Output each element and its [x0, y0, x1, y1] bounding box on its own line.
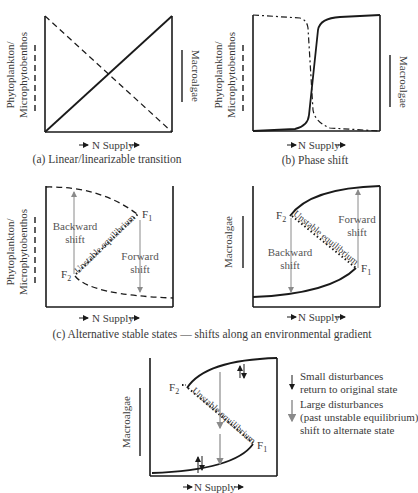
- backward-label-2: shift: [280, 259, 300, 271]
- upper-stable-branch: [187, 358, 277, 388]
- f1-label: F1: [257, 439, 267, 454]
- forward-label-1: Forward: [121, 250, 159, 262]
- panel-c-left-phytoplankton: Phytoplankton/ Microphytobenthos Backwar…: [4, 186, 173, 324]
- panel-c-right-macroalgae: Macroalgae Backward shift Forward shift …: [222, 186, 380, 323]
- y-label-phyto-2: Microphytobenthos: [17, 209, 29, 295]
- caption-a: (a) Linear/linearizable transition: [33, 153, 182, 166]
- disturbance-legend: Small disturbances return to original st…: [292, 370, 418, 436]
- y-label-macroalgae: Macroalgae: [222, 216, 234, 268]
- lower-dashed-branch: [75, 276, 173, 298]
- x-label: N Supply: [298, 311, 340, 323]
- x-label: N Supply: [194, 481, 236, 493]
- f2-label: F2: [276, 209, 286, 224]
- forward-label-2: shift: [130, 263, 150, 275]
- y-label-macroalgae: Macroalgae: [190, 50, 202, 102]
- x-label: N Supply: [92, 139, 134, 151]
- legend-large-1: Large disturbances: [300, 398, 383, 410]
- backward-label-2: shift: [65, 233, 85, 245]
- panel-d-disturbances: Macroalgae Unstable equilibrium F1 F2 N …: [120, 358, 418, 493]
- f1-label: F1: [142, 208, 152, 223]
- phytoplankton-dashed-curve: [253, 15, 380, 131]
- y-label-macroalgae: Macroalgae: [120, 396, 132, 448]
- caption-c: (c) Alternative stable states — shifts a…: [52, 328, 372, 341]
- caption-b: (b) Phase shift: [282, 154, 349, 167]
- panel-a-linear-transition: Phytoplankton/ Microphytobenthos Macroal…: [4, 16, 202, 166]
- legend-large-2: (past unstable equilibrium): [300, 411, 418, 424]
- legend-small-2: return to original state: [300, 383, 398, 395]
- macroalgae-curve: [253, 15, 380, 131]
- backward-label-1: Backward: [268, 246, 313, 258]
- y-label-phyto-1: Phytoplankton/: [4, 40, 16, 108]
- y-label-macroalgae: Macroalgae: [398, 56, 410, 108]
- forward-label-1: Forward: [338, 213, 376, 225]
- legend-small-1: Small disturbances: [300, 370, 383, 382]
- x-label: N Supply: [92, 312, 134, 324]
- forward-label-2: shift: [347, 226, 367, 238]
- y-label-phyto-1: Phytoplankton/: [212, 40, 224, 108]
- regime-shift-diagram: Phytoplankton/ Microphytobenthos Macroal…: [0, 0, 418, 493]
- unstable-equilibrium-label: Unstable equilibrium: [190, 386, 258, 447]
- upper-dashed-branch: [46, 187, 137, 214]
- y-label-phyto-2: Microphytobenthos: [225, 32, 237, 118]
- backward-label-1: Backward: [53, 220, 98, 232]
- lower-stable-branch: [253, 268, 356, 297]
- y-label-phyto-1: Phytoplankton/: [4, 217, 16, 285]
- legend-large-3: shift to alternate state: [300, 424, 394, 436]
- panel-b-phase-shift: Phytoplankton/ Microphytobenthos Macroal…: [212, 15, 410, 167]
- upper-stable-branch: [290, 186, 380, 216]
- f2-label: F2: [169, 381, 179, 396]
- f1-label: F1: [361, 262, 371, 277]
- y-label-phyto-2: Microphytobenthos: [17, 32, 29, 118]
- x-label: N Supply: [298, 139, 340, 151]
- f2-label: F2: [61, 268, 71, 283]
